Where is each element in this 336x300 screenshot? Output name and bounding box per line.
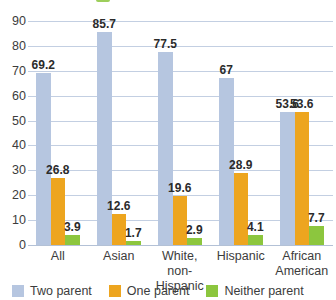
bar-value-label: 2.9 <box>178 224 211 236</box>
bar-value-label: 26.8 <box>42 164 75 176</box>
bar <box>36 73 51 245</box>
legend-label: Two parent <box>30 285 92 298</box>
bar <box>248 235 263 245</box>
x-axis-label: Hispanic <box>210 249 271 264</box>
x-axis-label: Asian <box>88 249 149 264</box>
bar-series-container: 69.226.83.985.712.61.777.519.62.96728.94… <box>28 21 333 245</box>
legend-spacer <box>189 291 206 292</box>
legend-item: Neither parent <box>206 285 303 298</box>
bar-value-label: 19.6 <box>164 182 197 194</box>
x-axis-labels: AllAsianWhite, non-HispanicHispanicAfric… <box>28 249 333 283</box>
bar-value-label: 28.9 <box>225 159 258 171</box>
chart-legend: Two parentOne parentNeither parent <box>12 283 304 299</box>
legend-swatch-icon <box>206 285 218 297</box>
bar-value-label: 1.7 <box>117 227 150 239</box>
y-tick-40: 40 <box>0 139 26 151</box>
bar-value-label: 53.6 <box>286 98 319 110</box>
y-tick-10: 10 <box>0 214 26 226</box>
bar-value-label: 3.9 <box>56 221 89 233</box>
y-tick-80: 80 <box>0 40 26 52</box>
bar <box>295 112 310 245</box>
legend-swatch-icon <box>109 285 121 297</box>
y-tick-30: 30 <box>0 164 26 176</box>
legend-label: One parent <box>127 285 190 298</box>
y-tick-60: 60 <box>0 90 26 102</box>
bar-group: 53.653.67.7 <box>280 21 324 245</box>
y-tick-0: 0 <box>0 239 26 251</box>
bar-group: 6728.94.1 <box>219 21 263 245</box>
gridline-0 <box>28 245 333 246</box>
bar-value-label: 12.6 <box>103 200 136 212</box>
bar <box>187 238 202 245</box>
legend-spacer <box>92 291 109 292</box>
bar-value-label: 69.2 <box>27 59 60 71</box>
legend-label: Neither parent <box>224 285 303 298</box>
bar <box>65 235 80 245</box>
bar-value-label: 67 <box>210 64 243 76</box>
y-tick-90: 90 <box>0 15 26 27</box>
legend-item: One parent <box>109 285 190 298</box>
x-axis-label: African American <box>271 249 332 279</box>
bar-value-label: 77.5 <box>149 38 182 50</box>
bar-group: 85.712.61.7 <box>97 21 141 245</box>
bar-group: 69.226.83.9 <box>36 21 80 245</box>
bar-value-label: 85.7 <box>88 18 121 30</box>
y-tick-50: 50 <box>0 115 26 127</box>
bar <box>158 52 173 245</box>
bar-group: 77.519.62.9 <box>158 21 202 245</box>
bar <box>309 226 324 245</box>
bar <box>51 178 66 245</box>
bar-chart: 0102030405060708090 69.226.83.985.712.61… <box>0 0 336 248</box>
legend-swatch-icon <box>12 285 24 297</box>
bar <box>173 196 188 245</box>
bar-value-label: 4.1 <box>239 221 272 233</box>
bar <box>126 241 141 245</box>
y-tick-20: 20 <box>0 189 26 201</box>
y-axis: 0102030405060708090 <box>0 21 26 245</box>
bar <box>97 32 112 245</box>
legend-item: Two parent <box>12 285 92 298</box>
x-axis-label: All <box>27 249 88 264</box>
y-tick-70: 70 <box>0 65 26 77</box>
bar-value-label: 7.7 <box>300 212 333 224</box>
bar <box>234 173 249 245</box>
bar <box>280 112 295 245</box>
